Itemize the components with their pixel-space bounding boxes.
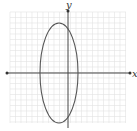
- x-axis-label: x: [132, 68, 137, 79]
- y-axis-label: y: [65, 0, 72, 10]
- x-axis-left-arrow-icon: [6, 72, 9, 75]
- coordinate-plane: x y: [0, 0, 137, 131]
- ellipse-diagram: x y: [0, 0, 137, 131]
